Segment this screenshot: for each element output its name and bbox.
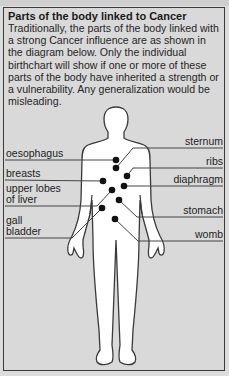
dot-stomach (116, 197, 123, 204)
label-upper-lobes-line2: of liver (6, 194, 37, 205)
label-sternum: sternum (185, 136, 223, 147)
label-breasts: breasts (6, 168, 40, 179)
dot-womb (112, 216, 119, 223)
dot-sternum (113, 165, 120, 172)
dot-upper-lobes (109, 187, 116, 194)
dot-oesophagus (113, 157, 120, 164)
label-womb: womb (195, 229, 223, 240)
dot-gall-bladder (99, 205, 106, 212)
label-ribs: ribs (206, 156, 223, 167)
dot-ribs (124, 173, 131, 180)
label-stomach: stomach (183, 205, 223, 216)
label-diaphragm: diaphragm (173, 174, 223, 185)
dot-breasts (100, 178, 107, 185)
body-silhouette (68, 107, 165, 365)
dot-diaphragm (121, 183, 128, 190)
label-gall-bladder-line2: bladder (6, 226, 41, 237)
label-oesophagus: oesophagus (6, 148, 63, 159)
